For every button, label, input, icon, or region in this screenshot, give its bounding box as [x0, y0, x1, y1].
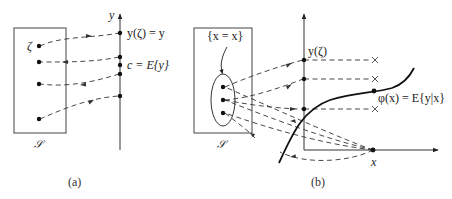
caption-a: (a): [68, 175, 81, 189]
arrowheads: [62, 34, 94, 105]
event-points: [221, 85, 225, 115]
label-mean: c = E{y}: [127, 58, 169, 72]
axis-label-y: y: [108, 8, 115, 22]
sample-space-label: 𝒮: [34, 138, 46, 150]
mapping-arrows: [225, 60, 373, 160]
mapping-arrows: [40, 33, 119, 119]
x-point-label: x: [370, 155, 377, 169]
sample-space-box: [194, 28, 252, 133]
caption-b: (b): [311, 175, 325, 189]
label-y-zeta: y(ζ) = y: [127, 26, 165, 40]
axis-points: [302, 58, 377, 153]
outcome-label-zeta: ζ: [27, 39, 33, 53]
outcome-points: [37, 44, 41, 121]
sample-space-label: 𝒮: [217, 138, 229, 150]
regression-curve: [279, 68, 414, 163]
panel-b: {x = x} y(ζ) φ(x) = E{y|x} x 𝒮 (b): [194, 14, 445, 189]
curve-label: φ(x) = E{y|x}: [378, 91, 445, 105]
horizontal-projections: [304, 60, 372, 109]
figure-canvas: y ζ y(ζ) = y c = E{y} 𝒮 (a): [0, 0, 452, 199]
event-pointer-arrow: [221, 47, 227, 72]
event-label: {x = x}: [207, 29, 243, 43]
label-y-zeta: y(ζ): [308, 44, 327, 58]
panel-a: y ζ y(ζ) = y c = E{y} 𝒮 (a): [14, 8, 169, 189]
